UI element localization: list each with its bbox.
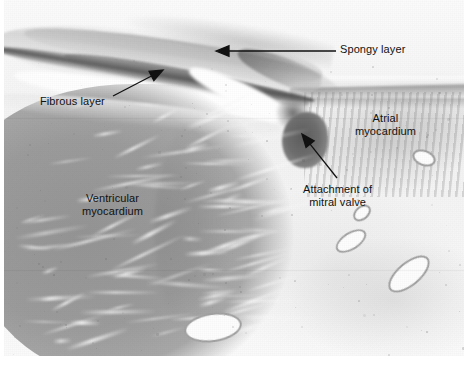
arrow-head-attachment-of-mitral-valve xyxy=(302,134,314,147)
label-attachment-of-mitral-valve: Attachment of mitral valve xyxy=(303,183,372,209)
arrow-head-fibrous-layer xyxy=(149,70,163,81)
arrow-line-fibrous-layer xyxy=(113,76,151,96)
arrow-line-attachment-of-mitral-valve xyxy=(310,144,337,178)
label-atrial-myocardium: Atrial myocardium xyxy=(355,112,416,138)
arrow-head-spongy-layer xyxy=(216,46,229,56)
label-ventricular-myocardium: Ventricular myocardium xyxy=(82,192,143,218)
label-fibrous-layer: Fibrous layer xyxy=(40,95,105,108)
histology-figure: Spongy layerFibrous layerAtrial myocardi… xyxy=(0,0,472,369)
label-spongy-layer: Spongy layer xyxy=(340,43,405,56)
